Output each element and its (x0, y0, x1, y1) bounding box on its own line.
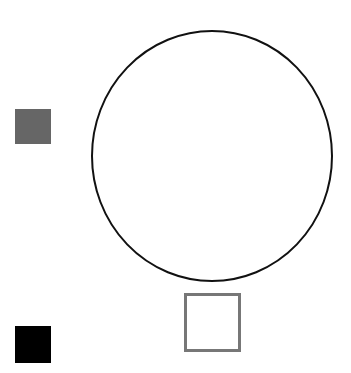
outline-square (184, 293, 241, 352)
black-square (15, 326, 51, 363)
circle-canvas (0, 0, 351, 373)
large-circle (92, 31, 332, 281)
